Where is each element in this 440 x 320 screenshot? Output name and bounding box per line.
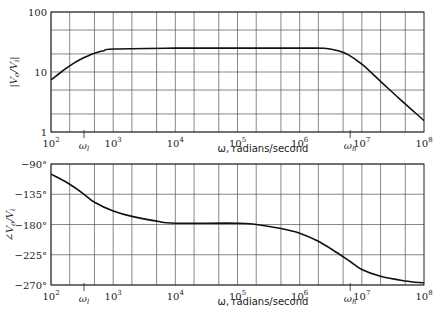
y-tick-label: 1 <box>41 127 47 138</box>
y-tick-label: −180° <box>15 220 47 231</box>
svg-text:∠Vo/Vi: ∠Vo/Vi <box>4 209 17 242</box>
magnitude-y-ticks: 110100 <box>28 7 47 138</box>
phase-plot: −90°−135°−180°−225°−270° 102103104105106… <box>4 159 433 307</box>
bode-plot-figure: 110100 102103104105106107108 ωlωh ω, rad… <box>0 0 440 320</box>
x-tick-label: 103 <box>105 289 122 302</box>
y-tick-label: −135° <box>15 189 47 200</box>
magnitude-y-axis-label: |Vo/Vi| <box>8 56 21 87</box>
phase-y-axis-label: ∠Vo/Vi <box>4 209 17 242</box>
x-tick-label: 102 <box>42 289 59 302</box>
x-tick-label: 108 <box>415 136 432 149</box>
magnitude-plot: 110100 102103104105106107108 ωlωh ω, rad… <box>8 7 433 154</box>
annotation-label: ωl <box>79 293 89 306</box>
y-tick-label: 10 <box>34 67 47 78</box>
y-tick-label: −225° <box>15 250 47 261</box>
magnitude-grid <box>51 12 424 132</box>
phase-x-axis-label: ω, radians/second <box>218 296 309 307</box>
svg-text:|Vo/Vi|: |Vo/Vi| <box>8 56 21 87</box>
x-tick-label: 102 <box>42 136 59 149</box>
magnitude-x-axis-label: ω, radians/second <box>218 143 309 154</box>
phase-y-ticks: −90°−135°−180°−225°−270° <box>15 159 47 291</box>
phase-grid <box>51 164 424 285</box>
x-tick-label: 104 <box>167 289 185 302</box>
y-tick-label: 100 <box>28 7 47 18</box>
x-tick-label: 108 <box>415 289 432 302</box>
x-tick-label: 103 <box>105 136 122 149</box>
y-tick-label: −270° <box>15 280 47 291</box>
x-tick-label: 104 <box>167 136 185 149</box>
annotation-label: ωl <box>79 140 89 153</box>
y-tick-label: −90° <box>21 159 47 170</box>
